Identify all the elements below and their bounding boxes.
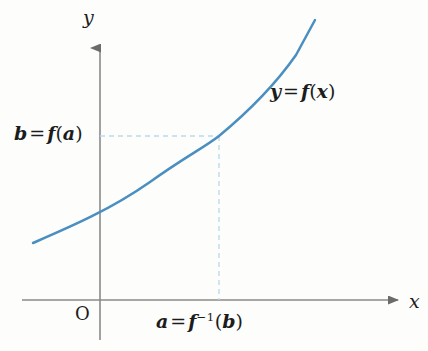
y-value-label: b=f(a) [14,124,83,143]
y-value-variable: b [14,122,27,144]
y-value-open-paren: ( [55,122,62,144]
plot-canvas [0,0,428,351]
x-value-argument: b [222,310,235,332]
x-axis-label: x [409,292,420,311]
function-inverse-figure: y x O b=f(a) a=f−1(b) y=f(x) [0,0,428,351]
x-value-exponent: −1 [196,310,214,324]
y-value-equals: = [27,122,47,144]
x-value-variable: a [156,310,168,332]
x-value-equals: = [168,310,188,332]
y-value-close-paren: ) [75,122,82,144]
x-value-close-paren: ) [236,310,243,332]
curve-variable: y [270,80,281,102]
curve-function: f [301,80,309,102]
x-value-label: a=f−1(b) [156,312,243,331]
y-axis-label: y [83,8,94,27]
curve-open-paren: ( [309,80,316,102]
curve-equals: = [281,80,301,102]
origin-label: O [75,305,90,323]
curve-argument: x [317,80,328,102]
curve-close-paren: ) [328,80,335,102]
curve-equation-label: y=f(x) [270,82,335,101]
y-value-argument: a [63,122,75,144]
